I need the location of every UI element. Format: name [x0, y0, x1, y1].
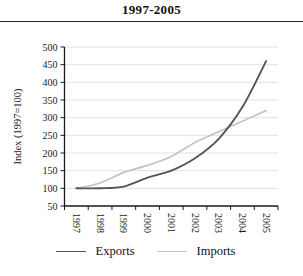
x-tick-label: 2005 [261, 213, 272, 233]
exports-line-swatch [56, 251, 86, 252]
x-tick-label: 2002 [190, 213, 201, 233]
y-tick-label: 250 [43, 130, 58, 141]
chart-figure: 1997-2005 501001502002503003504004505001… [0, 0, 303, 276]
y-tick-label: 400 [43, 77, 58, 88]
chart-legend: Exports Imports [0, 244, 303, 259]
y-tick-label: 500 [43, 42, 58, 53]
imports-line-swatch [157, 251, 187, 252]
y-tick-label: 50 [48, 201, 58, 212]
x-tick-label: 2001 [166, 213, 177, 233]
y-tick-label: 300 [43, 112, 58, 123]
y-tick-label: 450 [43, 59, 58, 70]
legend-label-exports: Exports [96, 244, 147, 259]
x-tick-label: 1998 [95, 213, 106, 233]
gridlines [65, 47, 279, 188]
y-tick-label: 150 [43, 165, 58, 176]
chart-title: 1997-2005 [0, 0, 303, 21]
y-axis-title: Index (1997=100) [12, 88, 24, 165]
line-chart-plot: 5010015020025030035040045050019971998199… [0, 22, 303, 238]
imports-line [76, 111, 266, 189]
x-tick-label: 2003 [213, 213, 224, 233]
y-tick-label: 200 [43, 148, 58, 159]
x-tick-label: 1999 [118, 213, 129, 233]
data-series [76, 61, 266, 188]
y-tick-label: 100 [43, 183, 58, 194]
axes: 5010015020025030035040045050019971998199… [12, 42, 278, 234]
y-tick-label: 350 [43, 95, 58, 106]
exports-line [76, 61, 266, 188]
x-tick-label: 1997 [71, 213, 82, 233]
x-tick-label: 2004 [237, 213, 248, 233]
legend-label-imports: Imports [197, 244, 248, 259]
x-tick-label: 2000 [142, 213, 153, 233]
